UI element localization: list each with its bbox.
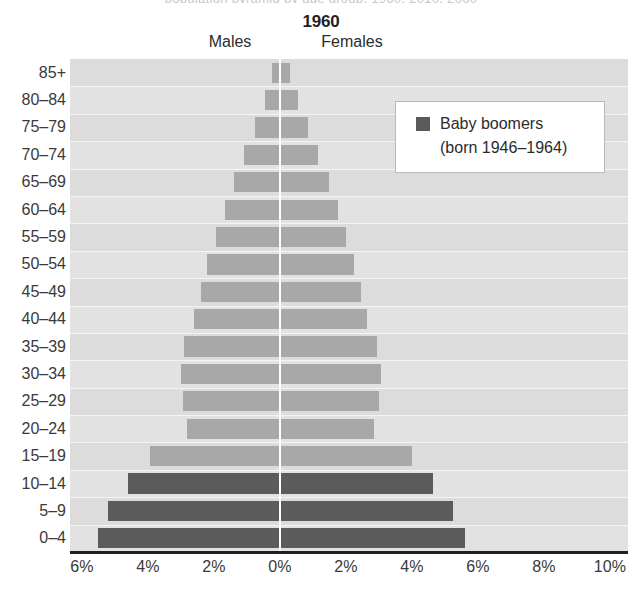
y-axis-label: 60–64 bbox=[4, 202, 66, 218]
y-axis-label: 10–14 bbox=[4, 476, 66, 492]
bar-male-30-34 bbox=[181, 364, 280, 384]
x-axis-tick-label: 6% bbox=[52, 558, 112, 576]
y-axis-label: 35–39 bbox=[4, 339, 66, 355]
bar-male-35-39 bbox=[184, 336, 280, 356]
legend-box: Baby boomers (born 1946–1964) bbox=[395, 101, 605, 173]
bar-male-10-14 bbox=[128, 473, 280, 493]
bar-male-55-59 bbox=[216, 227, 280, 247]
x-axis-tick-label: 6% bbox=[448, 558, 508, 576]
gridline bbox=[70, 86, 628, 87]
bar-male-0-4 bbox=[98, 528, 279, 548]
legend-swatch-icon bbox=[416, 117, 430, 131]
row-band bbox=[70, 223, 628, 250]
gridline bbox=[70, 306, 628, 307]
bar-male-65-69 bbox=[234, 172, 280, 192]
y-axis-label: 40–44 bbox=[4, 311, 66, 327]
cut-off-caption: population pyramid by age group, 1960, 2… bbox=[0, 0, 642, 3]
gridline bbox=[70, 415, 628, 416]
bar-female-85+ bbox=[280, 63, 290, 83]
y-axis-label: 45–49 bbox=[4, 284, 66, 300]
y-axis-label: 70–74 bbox=[4, 147, 66, 163]
bar-male-75-79 bbox=[255, 117, 280, 137]
x-axis-tick-label: 2% bbox=[184, 558, 244, 576]
bar-female-75-79 bbox=[280, 117, 308, 137]
bar-female-30-34 bbox=[280, 364, 381, 384]
y-axis-label: 30–34 bbox=[4, 366, 66, 382]
y-axis-labels: 85+80–8475–7970–7465–6960–6455–5950–5445… bbox=[0, 59, 66, 552]
x-axis-baseline bbox=[70, 551, 628, 554]
bar-female-0-4 bbox=[280, 528, 465, 548]
chart-title: 1960 bbox=[0, 12, 642, 32]
bar-male-50-54 bbox=[207, 254, 280, 274]
y-axis-label: 50–54 bbox=[4, 256, 66, 272]
y-axis-label: 15–19 bbox=[4, 448, 66, 464]
x-axis-tick-label: 0% bbox=[250, 558, 310, 576]
legend-subtitle-row: (born 1946–1964) bbox=[396, 136, 604, 160]
y-axis-label: 75–79 bbox=[4, 119, 66, 135]
gridline bbox=[70, 251, 628, 252]
gridline bbox=[70, 497, 628, 498]
gridline bbox=[70, 360, 628, 361]
bar-female-50-54 bbox=[280, 254, 354, 274]
bar-male-45-49 bbox=[201, 282, 280, 302]
bar-female-60-64 bbox=[280, 200, 338, 220]
series-label-females: Females bbox=[272, 33, 432, 51]
bar-male-80-84 bbox=[265, 90, 280, 110]
x-axis-tick-label: 10% bbox=[580, 558, 640, 576]
bar-male-40-44 bbox=[194, 309, 280, 329]
y-axis-label: 5–9 bbox=[4, 503, 66, 519]
gridline bbox=[70, 388, 628, 389]
bar-male-15-19 bbox=[150, 446, 280, 466]
bar-female-80-84 bbox=[280, 90, 298, 110]
bar-male-25-29 bbox=[183, 391, 280, 411]
x-axis-tick-label: 4% bbox=[382, 558, 442, 576]
x-axis-tick-label: 2% bbox=[316, 558, 376, 576]
y-axis-label: 25–29 bbox=[4, 393, 66, 409]
gridline bbox=[70, 525, 628, 526]
gridline bbox=[70, 196, 628, 197]
gridline bbox=[70, 442, 628, 443]
zero-centerline bbox=[279, 59, 281, 552]
row-band bbox=[70, 59, 628, 86]
bar-male-60-64 bbox=[225, 200, 279, 220]
y-axis-label: 65–69 bbox=[4, 174, 66, 190]
bar-female-65-69 bbox=[280, 172, 329, 192]
legend-entry-baby-boomers: Baby boomers bbox=[396, 112, 604, 136]
gridline bbox=[70, 333, 628, 334]
bar-female-45-49 bbox=[280, 282, 361, 302]
population-pyramid-chart: population pyramid by age group, 1960, 2… bbox=[0, 0, 642, 596]
bar-male-5-9 bbox=[108, 501, 280, 521]
bar-male-70-74 bbox=[244, 145, 280, 165]
y-axis-label: 85+ bbox=[4, 65, 66, 81]
bar-male-20-24 bbox=[187, 419, 279, 439]
gridline bbox=[70, 470, 628, 471]
bar-female-40-44 bbox=[280, 309, 367, 329]
row-band bbox=[70, 196, 628, 223]
gridline bbox=[70, 223, 628, 224]
x-axis-tick-label: 4% bbox=[118, 558, 178, 576]
bar-female-55-59 bbox=[280, 227, 346, 247]
x-axis-labels: 6%4%2%0%2%4%6%8%10% bbox=[0, 558, 642, 584]
bar-female-15-19 bbox=[280, 446, 412, 466]
gridline bbox=[70, 278, 628, 279]
bar-female-35-39 bbox=[280, 336, 377, 356]
bar-female-5-9 bbox=[280, 501, 453, 521]
y-axis-label: 55–59 bbox=[4, 229, 66, 245]
y-axis-label: 0–4 bbox=[4, 530, 66, 546]
bar-female-25-29 bbox=[280, 391, 379, 411]
y-axis-label: 20–24 bbox=[4, 421, 66, 437]
bar-female-70-74 bbox=[280, 145, 318, 165]
legend-subtitle: (born 1946–1964) bbox=[440, 139, 567, 157]
y-axis-label: 80–84 bbox=[4, 92, 66, 108]
bar-female-10-14 bbox=[280, 473, 433, 493]
bar-female-20-24 bbox=[280, 419, 374, 439]
legend-title: Baby boomers bbox=[440, 115, 543, 133]
x-axis-tick-label: 8% bbox=[514, 558, 574, 576]
